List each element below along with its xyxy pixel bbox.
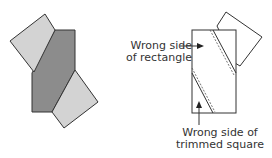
label-wrong-side-square: Wrong side of trimmed square bbox=[168, 127, 272, 151]
right-figure bbox=[180, 12, 262, 125]
label-rectangle-line2: of rectangle bbox=[116, 52, 192, 64]
rectangle-outline bbox=[192, 30, 236, 113]
label-square-line2: trimmed square bbox=[168, 139, 272, 151]
left-figure bbox=[10, 14, 98, 128]
label-wrong-side-rectangle: Wrong side of rectangle bbox=[116, 40, 192, 64]
